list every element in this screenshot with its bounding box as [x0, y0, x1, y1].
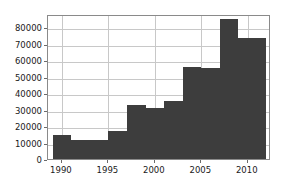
bar [71, 140, 90, 159]
x-tick-mark [154, 160, 155, 163]
bar [90, 140, 109, 159]
x-tick-mark [61, 160, 62, 163]
y-tick-label: 70000 [15, 40, 42, 49]
x-tick-label: 1995 [97, 166, 119, 175]
y-tick-label: 10000 [15, 139, 42, 148]
x-tick-label: 2005 [189, 166, 211, 175]
bar [108, 131, 127, 159]
y-tick-label: 50000 [15, 73, 42, 82]
bar [220, 19, 239, 159]
bar [127, 105, 146, 159]
histogram-figure: 0100002000030000400005000060000700008000… [0, 0, 281, 186]
bar [238, 38, 266, 159]
x-tick-mark [247, 160, 248, 163]
x-tick-label: 2000 [143, 166, 165, 175]
y-tick-label: 30000 [15, 106, 42, 115]
bar [146, 108, 165, 159]
bar [183, 67, 202, 159]
y-tick-label: 60000 [15, 57, 42, 66]
plot-area [47, 15, 270, 160]
y-tick-label: 20000 [15, 123, 42, 132]
y-tick-label: 0 [37, 156, 42, 165]
y-tick-label: 80000 [15, 24, 42, 33]
x-tick-label: 1990 [50, 166, 72, 175]
bar [53, 135, 72, 159]
bar [164, 101, 183, 159]
x-tick-mark [107, 160, 108, 163]
x-tick-mark [200, 160, 201, 163]
bar [201, 68, 220, 159]
x-tick-label: 2010 [236, 166, 258, 175]
y-tick-mark [44, 160, 47, 161]
y-tick-label: 40000 [15, 90, 42, 99]
